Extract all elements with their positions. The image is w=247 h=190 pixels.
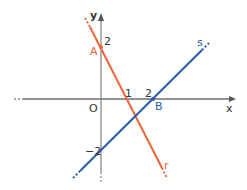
y-axis-label: y xyxy=(90,9,97,22)
point-a xyxy=(99,45,103,49)
point-a-label: A xyxy=(90,45,98,58)
point-b-label: B xyxy=(155,100,163,113)
tick-x-2: 2 xyxy=(145,87,152,100)
y-axis-arrow-icon xyxy=(98,13,104,21)
x-axis-label: x xyxy=(226,102,233,115)
tick-y-neg2: −2 xyxy=(85,145,101,158)
coordinate-plane: y x O 2 −2 1 2 A B r s xyxy=(0,0,247,190)
line-s-dashed-bottom xyxy=(73,171,80,178)
origin-label: O xyxy=(89,102,98,115)
line-s-dashed-top xyxy=(202,43,209,50)
line-r-label: r xyxy=(164,159,169,172)
line-s-label: s xyxy=(197,36,203,49)
tick-y-2: 2 xyxy=(104,35,111,48)
tick-x-1: 1 xyxy=(125,87,132,100)
